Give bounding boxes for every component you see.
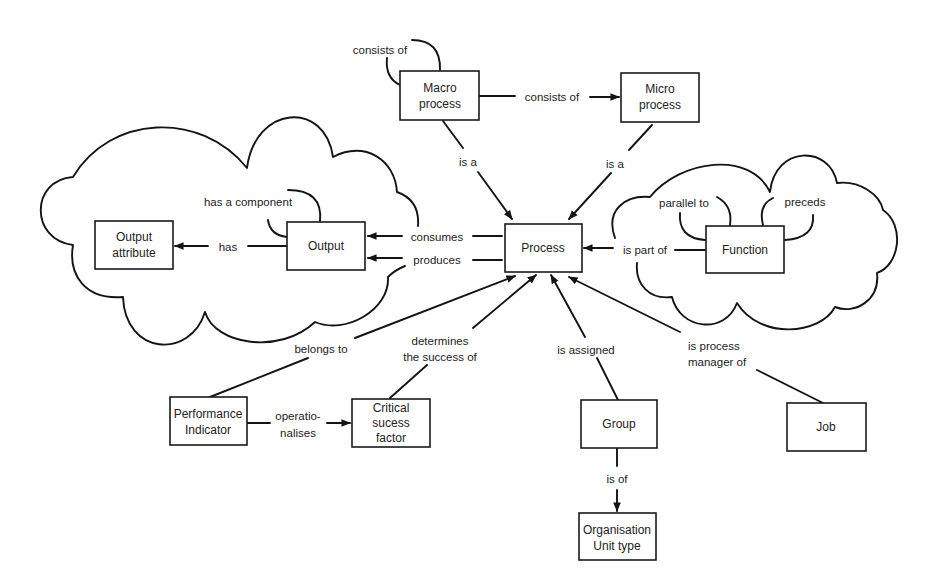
node-label: factor: [376, 431, 406, 445]
edge-label-has-a-component: has a component: [204, 196, 293, 208]
node-label: process: [419, 97, 461, 111]
node-label: Critical: [373, 401, 410, 415]
edge-label-nalises: nalises: [280, 427, 316, 439]
node-micro-process[interactable]: Micro process: [621, 73, 699, 122]
edge-label-has: has: [219, 241, 238, 253]
node-label: Macro: [423, 81, 457, 95]
edge-label-preceds: preceds: [785, 196, 826, 208]
edge-label-determines: determines: [412, 335, 469, 347]
node-label: Micro: [645, 82, 675, 96]
edge-label-is-process: is process: [688, 340, 740, 352]
node-performance-indicator[interactable]: Performance Indicator: [170, 397, 247, 445]
node-label: sucess: [372, 416, 409, 430]
node-macro-process[interactable]: Macro process: [400, 71, 479, 120]
node-output-attribute[interactable]: Output attribute: [95, 221, 173, 269]
node-label: Performance: [174, 407, 243, 421]
edge-label-is-assigned: is assigned: [557, 344, 615, 356]
node-label: Indicator: [185, 423, 231, 437]
edge-label-parallel-to: parallel to: [659, 197, 709, 209]
edge-label-is-a-left: is a: [459, 156, 478, 168]
edge-label-consumes: consumes: [411, 231, 464, 243]
node-function[interactable]: Function: [706, 226, 784, 273]
edge-label-is-a-right: is a: [606, 158, 625, 170]
node-label: attribute: [112, 246, 156, 260]
node-label: Unit type: [593, 539, 641, 553]
node-label: Process: [521, 241, 564, 255]
node-label: Job: [816, 420, 836, 434]
node-label: Organisation: [583, 523, 651, 537]
edge-indicator-belongs-to-process: [210, 276, 515, 397]
edge-label-consists-of: consists of: [525, 91, 580, 103]
edge-label-is-of: is of: [606, 473, 628, 485]
edge-label-macro-self-consists-of: consists of: [353, 44, 408, 56]
node-label: Output: [308, 239, 345, 253]
node-job[interactable]: Job: [787, 403, 866, 451]
edge-group-is-assigned-process: [551, 275, 618, 400]
node-group[interactable]: Group: [581, 400, 657, 448]
concept-diagram: Macro process Micro process Process Outp…: [0, 0, 937, 587]
edge-macro-is-a-process: [443, 121, 512, 219]
node-label: Output: [116, 230, 153, 244]
edge-micro-is-a-process: [569, 125, 652, 219]
node-label: process: [639, 98, 681, 112]
edge-label-operatio: operatio-: [275, 410, 321, 422]
edge-label-manager-of: manager of: [688, 356, 747, 368]
edge-label-is-part-of: is part of: [623, 244, 668, 256]
edge-label-belongs-to: belongs to: [294, 343, 347, 355]
node-process[interactable]: Process: [505, 224, 582, 272]
node-organisation-unit-type[interactable]: Organisation Unit type: [579, 513, 656, 560]
node-critical-success-factor[interactable]: Critical sucess factor: [352, 399, 430, 447]
edge-label-produces: produces: [413, 254, 461, 266]
node-output[interactable]: Output: [287, 222, 365, 270]
edge-label-the-success-of: the success of: [403, 351, 477, 363]
node-label: Group: [602, 417, 636, 431]
node-label: Function: [722, 243, 768, 257]
